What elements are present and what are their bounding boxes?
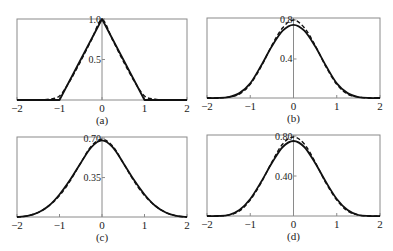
x-tick-label: 0 — [99, 102, 105, 114]
x-tick-label: −1 — [54, 102, 66, 114]
x-tick-label: 2 — [377, 218, 383, 230]
panel-a: −2−10121.00.5(a) — [11, 14, 190, 128]
y-tick-label: 0.80 — [275, 131, 293, 142]
x-tick-label: 2 — [184, 219, 190, 231]
panel-d: −2−10120.800.40(d) — [201, 131, 383, 244]
panel-caption: (c) — [96, 231, 109, 244]
panel-c: −2−10120.700.35(c) — [11, 133, 190, 244]
x-tick-label: −2 — [201, 218, 213, 230]
y-tick-label: 0.35 — [84, 172, 102, 183]
x-tick-label: 0 — [99, 219, 105, 231]
y-tick-label: 0.4 — [280, 53, 293, 64]
x-tick-label: −2 — [201, 100, 213, 112]
panel-caption: (a) — [96, 114, 109, 127]
x-tick-label: −1 — [244, 100, 256, 112]
x-tick-label: −2 — [11, 102, 23, 114]
x-tick-label: −2 — [11, 219, 23, 231]
y-tick-label: 0.40 — [275, 171, 293, 182]
x-tick-label: 1 — [334, 100, 340, 112]
figure-four-panels: −2−10121.00.5(a) −2−10120.80.4(b) −2−101… — [0, 0, 393, 251]
y-tick-label: 0.5 — [89, 54, 102, 65]
panel-b: −2−10120.80.4(b) — [201, 14, 383, 125]
x-tick-label: 2 — [377, 100, 383, 112]
x-tick-label: 0 — [291, 100, 297, 112]
x-tick-label: −1 — [244, 218, 256, 230]
x-tick-label: 1 — [142, 219, 148, 231]
x-tick-label: 0 — [291, 218, 297, 230]
x-tick-label: 1 — [142, 102, 148, 114]
x-tick-label: −1 — [54, 219, 66, 231]
panel-caption: (d) — [287, 230, 300, 243]
x-tick-label: 1 — [334, 218, 340, 230]
x-tick-label: 2 — [184, 102, 190, 114]
panel-caption: (b) — [287, 112, 300, 125]
